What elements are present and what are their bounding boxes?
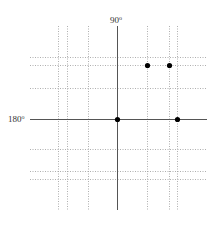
data-point [145, 63, 150, 68]
left-axis-label: 180o [8, 115, 25, 124]
data-point [115, 117, 120, 122]
left-axis-value: 180 [8, 114, 22, 124]
top-axis-label: 90o [110, 16, 122, 25]
degree-symbol: o [119, 15, 122, 21]
top-axis-value: 90 [110, 15, 119, 25]
coordinate-diagram [0, 0, 218, 230]
degree-symbol: o [22, 114, 25, 120]
data-point [167, 63, 172, 68]
data-point [175, 117, 180, 122]
